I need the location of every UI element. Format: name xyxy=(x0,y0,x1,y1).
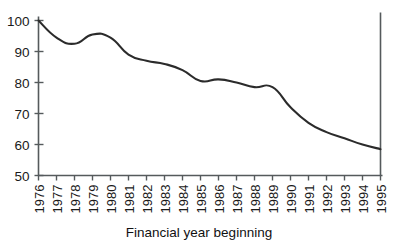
x-tick-label: 1983 xyxy=(158,185,173,214)
x-tick-label: 1979 xyxy=(86,185,101,214)
y-tick-label: 80 xyxy=(14,76,29,91)
chart-canvas: 5060708090100 19761977197819791980198119… xyxy=(0,0,399,243)
x-tick-label: 1994 xyxy=(356,185,371,214)
x-tick-label: 1985 xyxy=(194,185,209,214)
x-tick-label: 1981 xyxy=(122,185,137,214)
line-chart: 5060708090100 19761977197819791980198119… xyxy=(0,0,399,243)
x-tick-label: 1995 xyxy=(374,185,389,214)
x-tick-label: 1988 xyxy=(248,185,263,214)
x-axis-title: Financial year beginning xyxy=(126,225,272,240)
x-tick-label: 1978 xyxy=(68,185,83,214)
x-tick-label: 1989 xyxy=(266,185,281,214)
x-tick-label: 1991 xyxy=(302,185,317,214)
y-tick-label: 60 xyxy=(14,138,29,153)
x-tick-label: 1977 xyxy=(50,185,65,214)
x-tick-label: 1980 xyxy=(104,185,119,214)
x-tick-label: 1993 xyxy=(338,185,353,214)
x-tick-label: 1986 xyxy=(212,185,227,214)
x-tick-label: 1987 xyxy=(230,185,245,214)
y-tick-label: 100 xyxy=(7,14,30,29)
x-tick-label: 1984 xyxy=(176,185,191,214)
y-tick-label: 50 xyxy=(14,169,29,184)
x-tick-label: 1990 xyxy=(284,185,299,214)
x-tick-label: 1982 xyxy=(140,185,155,214)
x-tick-label: 1976 xyxy=(32,185,47,214)
x-tick-label: 1992 xyxy=(320,185,335,214)
y-tick-label: 70 xyxy=(14,107,29,122)
y-tick-label: 90 xyxy=(14,45,29,60)
